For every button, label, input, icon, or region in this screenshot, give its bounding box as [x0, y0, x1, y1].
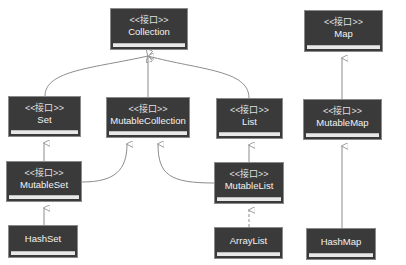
attribute-compartment: [217, 197, 281, 201]
stereotype-label: <<接口>>: [24, 168, 63, 179]
class-name: HashMap: [321, 236, 362, 247]
attribute-compartment: [113, 43, 185, 47]
class-name: MutableList: [225, 180, 274, 191]
stereotype-label: <<接口>>: [229, 169, 268, 180]
attribute-compartment: [306, 133, 379, 137]
class-name: MutableSet: [20, 179, 68, 190]
edge-mutablelist-mutablecollection: [158, 144, 214, 183]
stereotype-label: <<接口>>: [324, 17, 363, 28]
node-mutable-list[interactable]: <<接口>> MutableList: [214, 162, 284, 204]
node-mutable-set[interactable]: <<接口>> MutableSet: [6, 161, 82, 202]
class-name: HashSet: [25, 233, 61, 244]
attribute-compartment: [11, 251, 75, 255]
node-map[interactable]: <<接口>> Map: [304, 10, 383, 52]
attribute-compartment: [9, 195, 79, 199]
attribute-compartment: [11, 130, 78, 134]
attribute-compartment: [217, 252, 280, 256]
node-mutable-collection[interactable]: <<接口>> MutableCollection: [106, 97, 190, 138]
class-name: MutableMap: [316, 117, 368, 128]
stereotype-label: <<接口>>: [128, 104, 167, 115]
stereotype-label: <<接口>>: [230, 105, 269, 116]
node-hash-map[interactable]: HashMap: [306, 228, 376, 260]
class-name: Collection: [128, 26, 170, 37]
stereotype-label: <<接口>>: [25, 103, 64, 114]
node-hash-set[interactable]: HashSet: [8, 225, 78, 258]
edge-set-collection: [45, 56, 148, 96]
class-name: Map: [334, 28, 352, 39]
attribute-compartment: [309, 253, 373, 257]
node-set[interactable]: <<接口>> Set: [8, 96, 81, 137]
node-collection[interactable]: <<接口>> Collection: [110, 8, 188, 50]
stereotype-label: <<接口>>: [323, 106, 362, 117]
class-name: Set: [37, 114, 51, 125]
attribute-compartment: [219, 132, 280, 136]
node-array-list[interactable]: ArrayList: [214, 227, 283, 259]
class-name: MutableCollection: [110, 115, 186, 126]
stereotype-label: <<接口>>: [129, 15, 168, 26]
class-name: List: [242, 116, 257, 127]
attribute-compartment: [307, 45, 380, 49]
attribute-compartment: [109, 131, 187, 135]
class-name: ArrayList: [230, 235, 267, 246]
node-mutable-map[interactable]: <<接口>> MutableMap: [303, 99, 382, 140]
edge-list-collection: [148, 56, 249, 98]
edge-mutableset-mutablecollection: [82, 144, 127, 182]
node-list[interactable]: <<接口>> List: [216, 98, 283, 139]
